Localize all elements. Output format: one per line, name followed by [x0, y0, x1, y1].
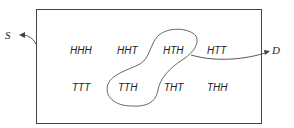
sample-space-arrowhead	[19, 32, 25, 38]
diagram-canvas	[0, 0, 294, 128]
sample-space-rectangle	[37, 10, 262, 124]
outcome-hht: HHT	[117, 46, 138, 56]
event-d-arrow	[191, 52, 268, 59]
outcome-thh: THH	[207, 83, 228, 93]
sample-space-label: S	[5, 30, 11, 40]
outcome-tth: TTH	[118, 83, 137, 93]
outcome-hth: HTH	[163, 46, 184, 56]
outcome-htt: HTT	[207, 46, 226, 56]
outcome-hhh: HHH	[70, 46, 92, 56]
event-d-arrowhead	[264, 50, 270, 55]
outcome-ttt: TTT	[72, 83, 90, 93]
event-label: D	[272, 45, 280, 55]
outcome-tht: THT	[164, 83, 183, 93]
event-d-outline	[107, 29, 197, 106]
